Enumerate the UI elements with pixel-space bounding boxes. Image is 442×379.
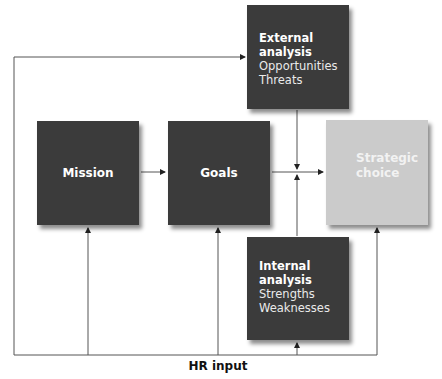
hr-input-label: HR input	[168, 359, 268, 373]
strategic-choice-box: Strategic choice	[326, 120, 428, 225]
strategic-label-2: choice	[356, 166, 428, 181]
external-analysis-box: External analysis Opportunities Threats	[247, 5, 349, 109]
internal-item-weaknesses: Weaknesses	[259, 301, 349, 315]
mission-label: Mission	[62, 166, 113, 180]
goals-label: Goals	[200, 166, 237, 180]
internal-title-2: analysis	[259, 273, 349, 287]
strategic-label-1: Strategic	[356, 151, 428, 166]
internal-item-strengths: Strengths	[259, 287, 349, 301]
external-title-1: External	[259, 31, 349, 45]
external-title-2: analysis	[259, 45, 349, 59]
internal-analysis-box: Internal analysis Strengths Weaknesses	[247, 237, 349, 340]
mission-box: Mission	[37, 121, 139, 225]
external-item-threats: Threats	[259, 73, 349, 87]
internal-title-1: Internal	[259, 259, 349, 273]
external-item-opportunities: Opportunities	[259, 59, 349, 73]
goals-box: Goals	[168, 121, 270, 225]
